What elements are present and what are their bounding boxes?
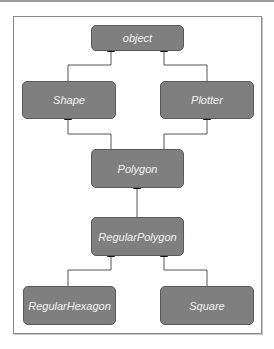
node-plotter: Plotter — [160, 81, 254, 119]
node-object: object — [91, 25, 184, 51]
node-polygon: Polygon — [91, 149, 184, 188]
edge-polygon-plotter — [164, 119, 207, 149]
node-regular-hexagon: RegularHexagon — [23, 286, 116, 325]
edge-regularhexagon-regularpolygon — [68, 256, 111, 286]
edge-shape-object — [68, 51, 111, 81]
node-regular-polygon: RegularPolygon — [91, 217, 184, 256]
node-square: Square — [160, 286, 254, 325]
node-shape: Shape — [22, 81, 116, 119]
edge-polygon-shape — [68, 119, 111, 149]
edge-plotter-object — [164, 51, 207, 81]
edge-square-regularpolygon — [164, 256, 207, 286]
